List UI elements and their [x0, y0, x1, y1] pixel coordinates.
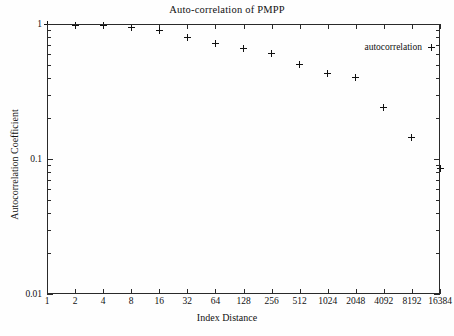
y-tick	[434, 294, 440, 295]
y-tick-label: 0.1	[0, 154, 42, 164]
x-axis-tick-labels: 1248163264128256512102420484092819216384	[0, 296, 454, 310]
x-tick-label: 2	[73, 296, 78, 306]
chart-figure: Auto-correlation of PMPP autocorrelation…	[0, 0, 454, 336]
x-tick-label: 16	[155, 296, 165, 306]
x-tick-label: 8	[129, 296, 134, 306]
x-tick-label: 1024	[318, 296, 337, 306]
plot-frame	[47, 24, 440, 294]
x-tick	[440, 24, 441, 29]
x-tick-label: 32	[183, 296, 193, 306]
y-tick-label: 0.01	[0, 289, 42, 299]
x-tick-label: 256	[264, 296, 278, 306]
x-tick-label: 1	[45, 296, 50, 306]
x-tick-label: 4	[101, 296, 106, 306]
chart-title: Auto-correlation of PMPP	[0, 4, 454, 15]
x-tick-label: 2048	[346, 296, 365, 306]
x-axis-title: Index Distance	[0, 312, 454, 323]
y-axis-title: Autocorrelation Coefficient	[9, 55, 20, 275]
x-tick-label: 8192	[402, 296, 421, 306]
x-tick-label: 512	[293, 296, 307, 306]
x-tick	[440, 289, 441, 294]
x-tick-label: 64	[211, 296, 221, 306]
x-tick-label: 4092	[374, 296, 393, 306]
y-tick	[47, 294, 53, 295]
x-tick-label: 128	[236, 296, 250, 306]
x-tick-label: 16384	[428, 296, 452, 306]
y-tick-label: 1	[0, 19, 42, 29]
